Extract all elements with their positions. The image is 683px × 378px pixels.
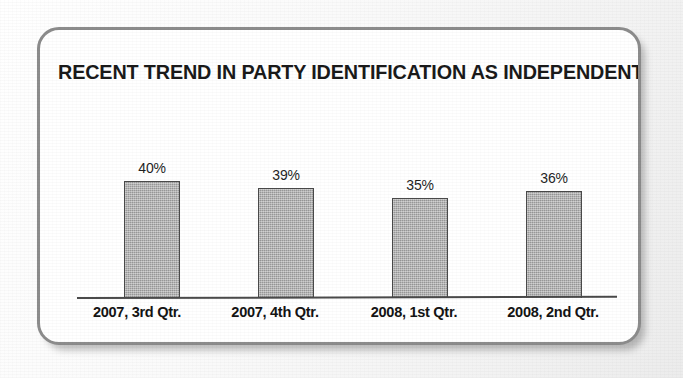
bar-3[interactable] <box>526 191 582 298</box>
x-axis-line <box>77 296 617 299</box>
x-axis-label-2: 2008, 1st Qtr. <box>346 303 482 320</box>
bar-group-3: 36% <box>487 130 621 298</box>
bar-group-1: 39% <box>219 130 353 298</box>
chart-card: RECENT TREND IN PARTY IDENTIFICATION AS … <box>37 27 641 345</box>
bar-group-0: 40% <box>85 130 219 298</box>
bar-group-2: 35% <box>353 130 487 298</box>
bar-value-label-3: 36% <box>540 170 567 186</box>
scanned-page-background: RECENT TREND IN PARTY IDENTIFICATION AS … <box>0 0 683 378</box>
bar-value-label-1: 39% <box>272 167 299 183</box>
x-axis-tick-labels: 2007, 3rd Qtr. 2007, 4th Qtr. 2008, 1st … <box>67 303 627 329</box>
x-axis-label-1: 2007, 4th Qtr. <box>207 303 343 320</box>
page-title: RECENT TREND IN PARTY IDENTIFICATION AS … <box>58 60 604 84</box>
bar-1[interactable] <box>258 188 314 298</box>
bar-value-label-0: 40% <box>138 160 165 176</box>
bar-value-label-2: 35% <box>406 177 433 193</box>
bar-0[interactable] <box>124 181 180 298</box>
x-axis-label-0: 2007, 3rd Qtr. <box>69 303 205 320</box>
x-axis-label-3: 2008, 2nd Qtr. <box>485 303 621 320</box>
chart-plot-area: 40% 39% 35% 36% <box>85 130 621 298</box>
bar-2[interactable] <box>392 198 448 298</box>
